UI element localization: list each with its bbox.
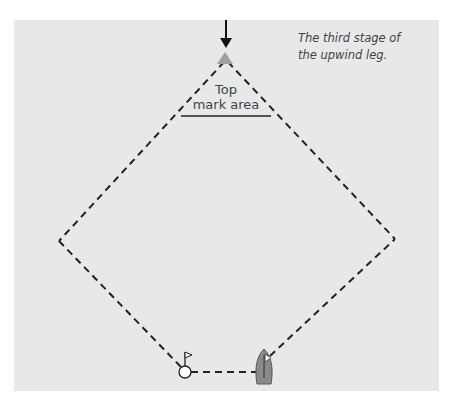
top-mark-area-line2: mark area <box>180 97 272 112</box>
caption-line2: the upwind leg. <box>298 47 438 64</box>
caption-line1: The third stage of <box>298 30 438 47</box>
top-mark-area-line1: Top <box>180 82 272 97</box>
flag-buoy-icon <box>179 352 192 378</box>
sailboat-icon <box>256 349 272 384</box>
down-arrow-icon <box>220 20 232 48</box>
caption: The third stage of the upwind leg. <box>298 30 438 64</box>
triangle-mark-icon <box>217 52 233 64</box>
top-mark-area-label: Top mark area <box>180 82 272 112</box>
